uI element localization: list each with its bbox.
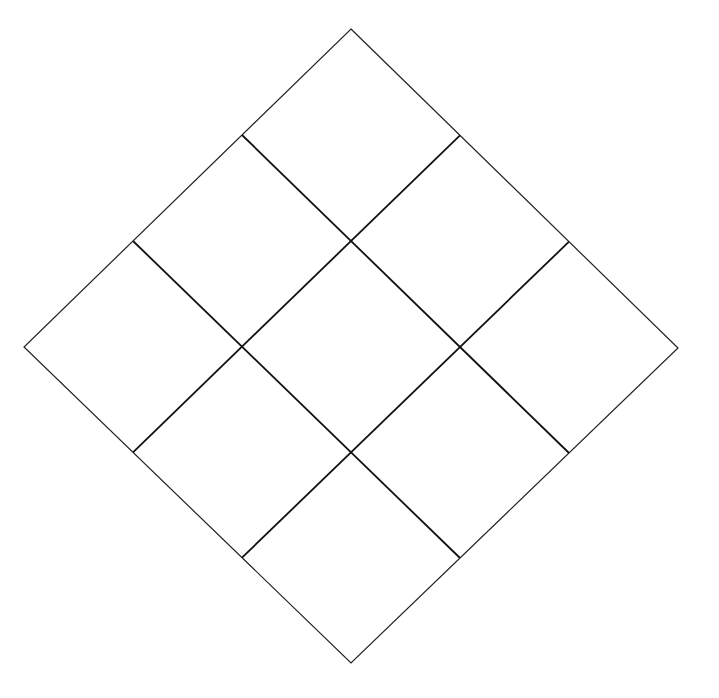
grid-cells xyxy=(24,29,678,663)
rotated-grid-diagram xyxy=(0,0,719,698)
